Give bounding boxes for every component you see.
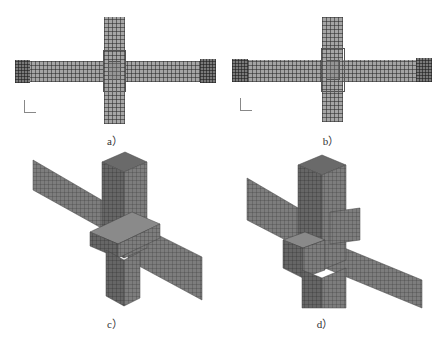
y-axis-line [240, 98, 241, 110]
panel-c: c） [0, 140, 220, 337]
x-axis-line [24, 112, 36, 113]
joint-inner [326, 60, 340, 80]
beam-end-right [416, 58, 432, 82]
beam-end-left [15, 60, 30, 83]
y-axis-line [24, 100, 25, 112]
beam-end-left [232, 59, 248, 82]
isometric-mesh-c [0, 140, 220, 337]
isometric-mesh-d [220, 140, 441, 337]
x-axis-line [240, 110, 252, 111]
joint-inner [108, 61, 121, 80]
panel-a: a） [0, 0, 220, 140]
caption-d: d） [310, 315, 340, 331]
panel-d: d） [220, 140, 441, 337]
beam-end-right [200, 59, 216, 83]
panel-b: b） [220, 0, 441, 140]
caption-c: c） [100, 315, 130, 331]
